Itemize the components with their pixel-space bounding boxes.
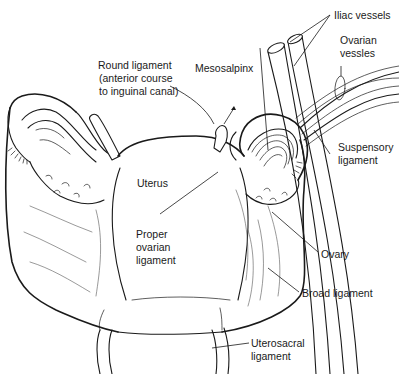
label-proper-ovarian-ligament-line3: ligament bbox=[136, 254, 176, 266]
label-round-ligament-line1: Round ligament bbox=[98, 59, 172, 71]
arrowhead-icon bbox=[231, 106, 236, 110]
uterus-illustration bbox=[112, 136, 248, 300]
label-ovary: Ovary bbox=[321, 248, 350, 260]
label-broad-ligament: Broad ligament bbox=[302, 287, 373, 299]
label-uterus: Uterus bbox=[137, 177, 168, 189]
label-ovarian-vessels-line1: Ovarian bbox=[340, 34, 377, 46]
left-ovary bbox=[30, 162, 104, 203]
right-ovary bbox=[246, 180, 299, 204]
label-proper-ovarian-ligament-line1: Proper bbox=[136, 228, 168, 240]
uterosacral-ligaments-illustration bbox=[97, 308, 229, 374]
label-uterosacral-ligament-line1: Uterosacral bbox=[251, 337, 305, 349]
label-ovarian-vessels-line2: vessles bbox=[340, 47, 375, 59]
label-uterosacral-ligament-line2: ligament bbox=[251, 350, 291, 362]
label-iliac-vessels: Iliac vessels bbox=[334, 9, 391, 21]
label-round-ligament-line3: to inguinal canal) bbox=[99, 85, 178, 97]
label-suspensory-ligament-line1: Suspensory bbox=[338, 141, 394, 153]
label-proper-ovarian-ligament-line2: ovarian bbox=[136, 241, 171, 253]
label-suspensory-ligament-line2: ligament bbox=[338, 154, 378, 166]
label-mesosalpinx: Mesosalpinx bbox=[195, 62, 254, 74]
ovarian-vessels-illustration bbox=[296, 66, 399, 146]
label-round-ligament-line2: (anterior course bbox=[99, 72, 173, 84]
right-fallopian-tube bbox=[230, 114, 307, 180]
uterus-anatomy-diagram: Iliac vessels Ovarian vessles Round liga… bbox=[0, 0, 399, 374]
